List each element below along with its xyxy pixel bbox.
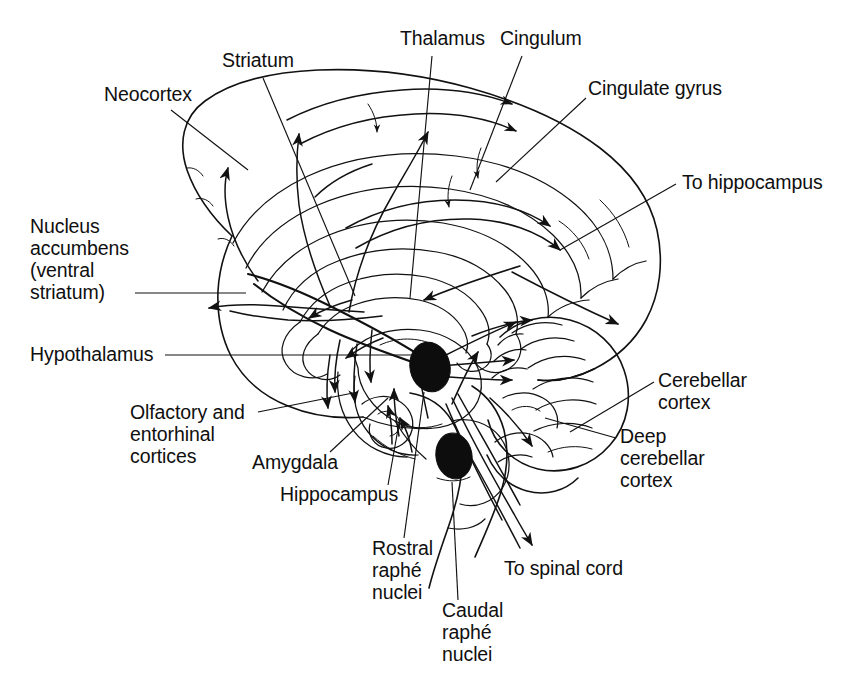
label-cerebellar-cortex-line2: cortex xyxy=(658,392,711,414)
label-caudal-raphe-line2: raphé xyxy=(442,622,491,644)
caudal-raphe-nuclei-marker xyxy=(432,430,475,482)
label-rostral-raphe-line2: raphé xyxy=(372,560,421,582)
leader-thalamus xyxy=(410,56,432,298)
leader-amygdala xyxy=(330,398,388,452)
label-nucleus-accumbens-line2: accumbens xyxy=(30,238,129,260)
label-olfactory-line2: entorhinal xyxy=(130,424,215,446)
hypothalamus-basal-forebrain xyxy=(338,372,418,457)
label-deep-cerebellar-line3: cortex xyxy=(620,470,673,492)
label-caudal-raphe-line3: nuclei xyxy=(442,644,492,666)
label-hypothalamus: Hypothalamus xyxy=(30,344,153,366)
brain-pathway-figure: Neocortex Striatum Thalamus Cingulum Cin… xyxy=(0,0,844,688)
leader-deep-cerebellar-cortex xyxy=(545,418,616,438)
cingulate-gyrus-contour xyxy=(233,154,613,317)
label-cerebellar-cortex-line1: Cerebellar xyxy=(658,370,747,392)
label-striatum: Striatum xyxy=(222,50,294,72)
label-cingulum: Cingulum xyxy=(500,28,582,50)
label-to-hippocampus: To hippocampus xyxy=(682,172,823,194)
label-olfactory-line3: cortices xyxy=(130,446,196,468)
leader-cingulate-gyrus xyxy=(496,98,586,182)
cerebellum xyxy=(487,317,628,493)
leader-rostral-raphe xyxy=(404,392,424,538)
label-rostral-raphe-line3: nuclei xyxy=(372,582,422,604)
rostral-raphe-nuclei-marker xyxy=(405,338,455,395)
leader-hippocampus xyxy=(388,418,400,485)
label-deep-cerebellar-line1: Deep xyxy=(620,426,666,448)
occipital-contour xyxy=(538,200,646,381)
label-nucleus-accumbens-line4: striatum) xyxy=(30,282,105,304)
label-nucleus-accumbens-line1: Nucleus xyxy=(30,216,100,238)
label-rostral-raphe-line1: Rostral xyxy=(372,538,433,560)
label-thalamus: Thalamus xyxy=(400,28,485,50)
label-caudal-raphe-line1: Caudal xyxy=(442,600,503,622)
label-amygdala: Amygdala xyxy=(252,452,338,474)
label-cingulate-gyrus: Cingulate gyrus xyxy=(588,78,722,100)
label-deep-cerebellar-line2: cerebellar xyxy=(620,448,705,470)
leader-olfactory-entorhinal xyxy=(258,392,358,412)
label-olfactory-line1: Olfactory and xyxy=(130,402,245,424)
label-neocortex: Neocortex xyxy=(104,84,192,106)
label-to-spinal-cord: To spinal cord xyxy=(504,558,623,580)
corpus-callosum xyxy=(282,249,521,380)
label-hippocampus: Hippocampus xyxy=(280,484,398,506)
label-nucleus-accumbens-line3: (ventral xyxy=(30,260,94,282)
leader-lines xyxy=(135,56,676,600)
